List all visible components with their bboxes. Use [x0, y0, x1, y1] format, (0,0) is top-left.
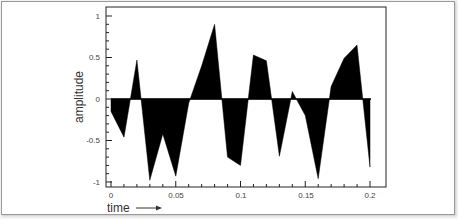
y-tick-label: 0: [96, 95, 101, 104]
x-tick-label: 0.15: [298, 191, 314, 200]
x-tick-label: 0: [109, 191, 114, 200]
x-tick-label: 0.1: [235, 191, 247, 200]
y-axis-label: amplitude: [72, 71, 86, 123]
y-tick-label: -0.5: [86, 136, 100, 145]
arrow-right-icon: [136, 206, 162, 211]
x-tick-label: 0.2: [364, 191, 376, 200]
y-tick-label: 0.5: [89, 53, 101, 62]
y-tick-label: -1: [93, 178, 101, 187]
x-axis-label: time: [107, 201, 130, 215]
y-tick-label: 1: [96, 12, 101, 21]
chart: 1 0.5 0 -0.5 -1 0 0.05 0.1 0.15 0.2 ampl…: [0, 0, 458, 219]
x-tick-label: 0.05: [168, 191, 184, 200]
